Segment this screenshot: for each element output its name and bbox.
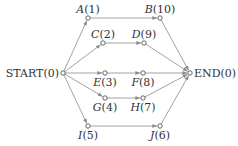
node-label-h: H(7) [129,101,155,114]
node-label-j: J(6) [148,129,170,142]
node-label-start: START(0) [6,67,59,80]
labels-group: START(0)A(1)B(10)C(2)D(9)E(3)F(8)G(4)H(7… [6,3,236,142]
nodes-group [61,16,192,128]
node-label-b: B(10) [144,3,176,16]
node-c [101,41,105,45]
node-label-e: E(3) [92,76,117,89]
node-e [103,71,107,75]
node-start [61,71,65,75]
node-j [158,124,162,128]
node-end [188,71,192,75]
edge-j-to-end [161,75,189,124]
node-label-c: C(2) [91,28,115,41]
node-b [158,16,162,20]
node-label-i: I(5) [77,129,98,142]
node-f [141,71,145,75]
node-label-g: G(4) [93,101,117,114]
activity-network-diagram: START(0)A(1)B(10)C(2)D(9)E(3)F(8)G(4)H(7… [0,0,238,146]
node-label-d: D(9) [131,28,156,41]
node-label-f: F(8) [130,76,154,89]
node-g [103,96,107,100]
node-label-a: A(1) [75,3,100,16]
node-i [86,124,90,128]
node-d [142,41,146,45]
node-label-end: END(0) [194,67,236,80]
node-h [141,96,145,100]
edges-group [64,18,189,126]
edge-start-to-i [64,75,87,123]
node-a [86,16,90,20]
